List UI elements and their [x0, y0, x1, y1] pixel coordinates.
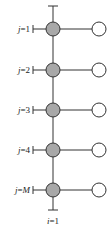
open-node: [92, 22, 106, 36]
chain-diagram: j=1j=2j=3j=4j=M i=1: [0, 0, 112, 232]
row-4: j=4: [17, 143, 106, 157]
filled-node: [46, 22, 60, 36]
bottom-label-eq: =1: [49, 216, 59, 226]
row-3: j=3: [17, 103, 106, 117]
row-label-sub: M: [22, 185, 31, 195]
row-label-eq: =3: [20, 105, 30, 115]
row-label-eq: =4: [20, 145, 30, 155]
open-node: [92, 143, 106, 157]
row-1: j=1: [17, 22, 106, 36]
row-label: j=3: [17, 105, 31, 115]
filled-node: [46, 183, 60, 197]
row-label: j=M: [14, 185, 31, 195]
filled-node: [46, 143, 60, 157]
open-node: [92, 183, 106, 197]
open-node: [92, 63, 106, 77]
filled-node: [46, 103, 60, 117]
open-node: [92, 103, 106, 117]
bottom-label: i=1: [47, 216, 59, 226]
row-label-eq: =2: [20, 65, 30, 75]
row-label: j=4: [17, 145, 31, 155]
row-label: j=1: [17, 24, 30, 34]
row-label: j=2: [17, 65, 30, 75]
rows-group: j=1j=2j=3j=4j=M: [14, 22, 106, 197]
row-2: j=2: [17, 63, 106, 77]
filled-node: [46, 63, 60, 77]
row-5: j=M: [14, 183, 106, 197]
row-label-eq: =1: [20, 24, 30, 34]
